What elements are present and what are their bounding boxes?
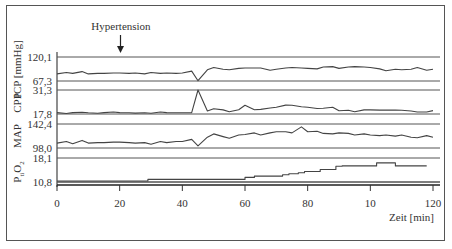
y-tick-label: 18,1 <box>33 152 52 164</box>
panel-label-ptio2: PtiO2 <box>11 161 26 183</box>
y-tick-label: 120,1 <box>27 51 52 63</box>
x-tick-label: 10 <box>365 197 377 209</box>
multi-panel-line-chart: Hypertension 120,167,331,317,8142,498,01… <box>0 0 452 249</box>
x-tick-label: 120 <box>425 197 442 209</box>
y-tick-labels: 120,167,331,317,8142,498,018,110,8 <box>27 51 52 188</box>
trace-cpp <box>57 90 433 114</box>
x-tick-label: 40 <box>177 197 189 209</box>
panel-label-map: MAP <box>11 124 23 148</box>
trace-ptio2 <box>57 163 427 181</box>
y-tick-label: 31,3 <box>33 84 53 96</box>
x-axis: 02040608010120 <box>54 185 442 209</box>
annotation-label: Hypertension <box>91 20 151 32</box>
x-tick-label: 80 <box>302 197 314 209</box>
x-tick-label: 0 <box>54 197 60 209</box>
unit-label: [mmHg] <box>11 40 23 78</box>
x-tick-label: 60 <box>240 197 252 209</box>
panel-label-icp: ICP [mmHg] <box>11 40 23 97</box>
panel-label-cpp: CPP <box>11 93 23 113</box>
x-axis-title: Zeit [min] <box>389 211 434 223</box>
trace-icp <box>57 67 433 81</box>
x-tick-label: 20 <box>114 197 126 209</box>
svg-text:PtiO2: PtiO2 <box>11 161 26 183</box>
arrow-down-icon <box>117 35 124 53</box>
y-tick-label: 142,4 <box>27 118 52 130</box>
svg-text:ICP [mmHg]: ICP [mmHg] <box>11 40 23 97</box>
y-tick-label: 10,8 <box>33 176 53 188</box>
trace-map <box>57 127 433 146</box>
